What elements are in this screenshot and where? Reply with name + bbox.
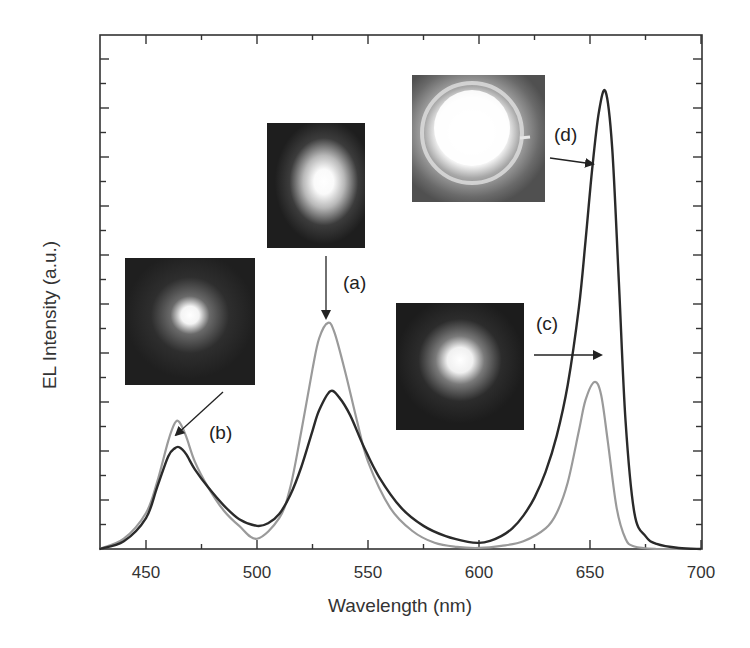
- inset-image-a: [267, 123, 365, 248]
- x-tick-label: 700: [687, 563, 715, 582]
- x-tick-label: 450: [132, 563, 160, 582]
- inset-image-d: [412, 75, 545, 202]
- x-tick-label: 550: [354, 563, 382, 582]
- label-c: (c): [536, 313, 558, 334]
- x-tick-label: 600: [465, 563, 493, 582]
- label-b: (b): [209, 422, 232, 443]
- x-tick-label: 500: [243, 563, 271, 582]
- arrow-d: [550, 158, 593, 164]
- label-d: (d): [554, 124, 577, 145]
- y-axis-title: EL Intensity (a.u.): [39, 241, 60, 389]
- label-a: (a): [343, 272, 366, 293]
- el-spectrum-chart: 450500550600650700 (a) (b) (c) (d) Wavel…: [0, 0, 750, 648]
- inset-image-c: [396, 303, 524, 430]
- x-tick-label: 650: [576, 563, 604, 582]
- x-tick-labels: 450500550600650700: [132, 563, 715, 582]
- inset-image-b: [125, 258, 255, 385]
- x-axis-title: Wavelength (nm): [328, 595, 472, 616]
